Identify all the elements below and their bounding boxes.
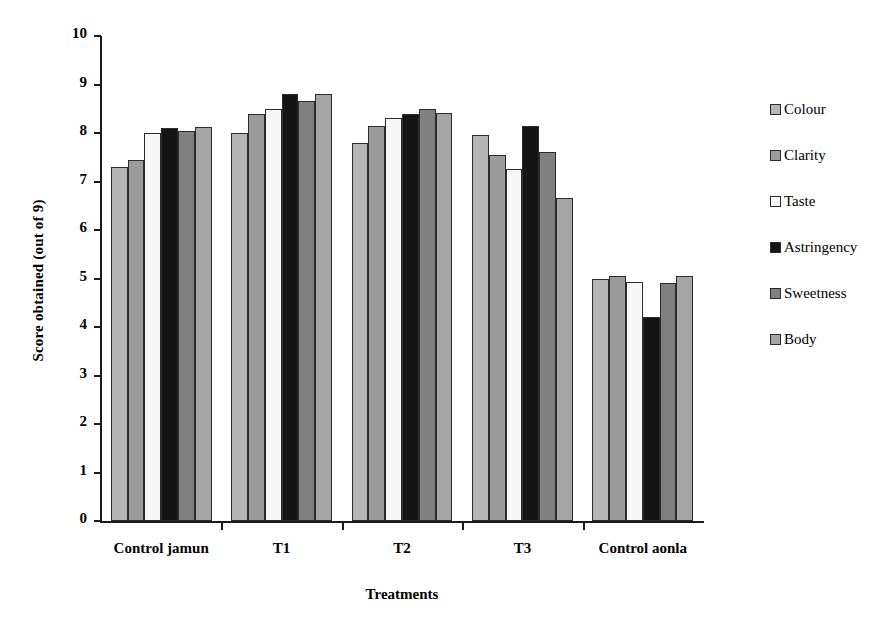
bar-body-t2[interactable] bbox=[436, 113, 453, 521]
legend-swatch-icon bbox=[770, 334, 781, 345]
y-axis-tick-mark bbox=[94, 278, 101, 280]
legend-item-body[interactable]: Body bbox=[770, 316, 890, 362]
y-axis-tick-label: 10 bbox=[47, 25, 87, 42]
bar-taste-t2[interactable] bbox=[385, 118, 402, 521]
bar-astringency-t1[interactable] bbox=[282, 94, 299, 521]
bar-body-control-jamun[interactable] bbox=[195, 127, 212, 521]
y-axis-tick-mark bbox=[94, 472, 101, 474]
legend-label: Colour bbox=[784, 101, 826, 118]
x-axis-category-label: Control aonla bbox=[583, 540, 703, 557]
y-axis-tick-label: 5 bbox=[47, 268, 87, 285]
bar-astringency-t3[interactable] bbox=[522, 126, 539, 521]
legend-swatch-icon bbox=[770, 288, 781, 299]
bar-sweetness-t2[interactable] bbox=[419, 109, 436, 521]
bar-sweetness-control-aonla[interactable] bbox=[660, 283, 677, 521]
bar-taste-control-aonla[interactable] bbox=[626, 282, 643, 521]
y-axis-tick-label: 6 bbox=[47, 219, 87, 236]
y-axis-tick-mark bbox=[94, 84, 101, 86]
bar-taste-t1[interactable] bbox=[265, 109, 282, 521]
x-axis-category-label: T1 bbox=[221, 540, 341, 557]
y-axis-tick-mark bbox=[94, 181, 101, 183]
bar-body-t1[interactable] bbox=[315, 94, 332, 521]
bar-colour-t2[interactable] bbox=[352, 143, 369, 521]
y-axis-title: Score obtained (out of 9) bbox=[30, 131, 47, 431]
y-axis-tick-mark bbox=[94, 35, 101, 37]
legend-item-colour[interactable]: Colour bbox=[770, 86, 890, 132]
x-axis-tick-mark bbox=[462, 521, 464, 530]
bar-sweetness-t1[interactable] bbox=[298, 101, 315, 521]
bar-colour-t1[interactable] bbox=[231, 133, 248, 521]
bar-colour-control-aonla[interactable] bbox=[592, 279, 609, 522]
legend-label: Astringency bbox=[784, 239, 857, 256]
bar-clarity-control-aonla[interactable] bbox=[609, 276, 626, 521]
y-axis-tick-mark bbox=[94, 375, 101, 377]
y-axis-tick-label: 9 bbox=[47, 74, 87, 91]
legend-item-sweetness[interactable]: Sweetness bbox=[770, 270, 890, 316]
plot-area bbox=[101, 36, 703, 521]
bar-taste-control-jamun[interactable] bbox=[144, 133, 161, 521]
bar-group bbox=[111, 36, 212, 521]
legend-swatch-icon bbox=[770, 242, 781, 253]
y-axis-tick-label: 1 bbox=[47, 462, 87, 479]
legend-item-taste[interactable]: Taste bbox=[770, 178, 890, 224]
bar-astringency-control-jamun[interactable] bbox=[161, 128, 178, 521]
bar-clarity-control-jamun[interactable] bbox=[128, 160, 145, 521]
legend-label: Sweetness bbox=[784, 285, 847, 302]
x-axis-category-label: Control jamun bbox=[101, 540, 221, 557]
bar-colour-t3[interactable] bbox=[472, 135, 489, 521]
legend: ColourClarityTasteAstringencySweetnessBo… bbox=[770, 86, 890, 362]
y-axis-tick-mark bbox=[94, 520, 101, 522]
legend-label: Body bbox=[784, 331, 817, 348]
legend-item-clarity[interactable]: Clarity bbox=[770, 132, 890, 178]
legend-swatch-icon bbox=[770, 150, 781, 161]
bar-group bbox=[231, 36, 332, 521]
bar-group bbox=[592, 36, 693, 521]
bar-astringency-t2[interactable] bbox=[402, 114, 419, 521]
bar-sweetness-control-jamun[interactable] bbox=[178, 131, 195, 521]
bar-astringency-control-aonla[interactable] bbox=[643, 317, 660, 521]
legend-swatch-icon bbox=[770, 104, 781, 115]
bar-chart: Score obtained (out of 9) 012345678910 C… bbox=[0, 0, 891, 634]
bar-body-t3[interactable] bbox=[556, 198, 573, 521]
y-axis-tick-label: 2 bbox=[47, 413, 87, 430]
bar-group bbox=[352, 36, 453, 521]
bar-colour-control-jamun[interactable] bbox=[111, 167, 128, 521]
x-axis-title: Treatments bbox=[101, 586, 703, 603]
x-axis-line bbox=[100, 521, 704, 523]
y-axis-tick-mark bbox=[94, 326, 101, 328]
bar-body-control-aonla[interactable] bbox=[676, 276, 693, 521]
y-axis-tick-label: 8 bbox=[47, 122, 87, 139]
y-axis-tick-label: 0 bbox=[47, 510, 87, 527]
x-axis-category-label: T3 bbox=[462, 540, 582, 557]
x-axis-tick-mark bbox=[221, 521, 223, 530]
legend-swatch-icon bbox=[770, 196, 781, 207]
legend-item-astringency[interactable]: Astringency bbox=[770, 224, 890, 270]
x-axis-tick-mark bbox=[342, 521, 344, 530]
x-axis-category-label: T2 bbox=[342, 540, 462, 557]
bar-group bbox=[472, 36, 573, 521]
y-axis-tick-label: 4 bbox=[47, 316, 87, 333]
x-axis-tick-mark bbox=[583, 521, 585, 530]
bar-clarity-t3[interactable] bbox=[489, 155, 506, 521]
bar-sweetness-t3[interactable] bbox=[539, 152, 556, 521]
y-axis-tick-mark bbox=[94, 229, 101, 231]
y-axis-tick-label: 7 bbox=[47, 171, 87, 188]
bar-taste-t3[interactable] bbox=[506, 169, 523, 521]
legend-label: Taste bbox=[784, 193, 815, 210]
bar-clarity-t2[interactable] bbox=[368, 126, 385, 521]
y-axis-tick-label: 3 bbox=[47, 365, 87, 382]
y-axis-tick-mark bbox=[94, 423, 101, 425]
bar-clarity-t1[interactable] bbox=[248, 114, 265, 521]
y-axis-tick-mark bbox=[94, 132, 101, 134]
legend-label: Clarity bbox=[784, 147, 826, 164]
